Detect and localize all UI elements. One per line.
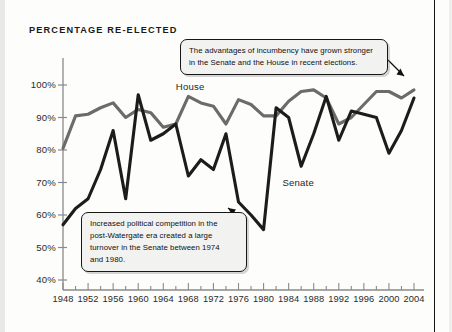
callout-top-line-1: The advantages of incumbency have grown … xyxy=(189,45,379,57)
annotation-arrows xyxy=(228,60,404,221)
x-axis-ticks xyxy=(63,283,414,290)
x-tick-label: 2004 xyxy=(397,294,431,304)
chart-series-lines xyxy=(63,90,414,230)
y-tick-label: 40% xyxy=(22,274,56,285)
callout-bottom-line-3: turnover in the Senate between 1974 xyxy=(90,242,238,254)
y-tick-label: 50% xyxy=(22,242,56,253)
y-tick-label: 70% xyxy=(22,177,56,188)
callout-top-line-2: in the Senate and the House in recent el… xyxy=(189,57,379,69)
y-tick-label: 80% xyxy=(22,144,56,155)
callout-bottom-line-2: post-Watergate era created a large xyxy=(90,230,238,242)
callout-bottom-line-1: Increased political competition in the xyxy=(90,218,238,230)
y-tick-label: 100% xyxy=(22,79,56,90)
series-line-senate xyxy=(63,95,414,230)
series-label-senate: Senate xyxy=(282,177,314,188)
annotation-callout-top: The advantages of incumbency have grown … xyxy=(180,39,388,75)
annotation-callout-bottom: Increased political competition in the p… xyxy=(81,212,247,272)
series-label-house: House xyxy=(176,81,205,92)
chart-page: PERCENTAGE RE-ELECTED 100%90%80%70%60%50… xyxy=(0,0,452,332)
y-tick-label: 60% xyxy=(22,209,56,220)
y-tick-label: 90% xyxy=(22,112,56,123)
callout-bottom-line-4: and 1980. xyxy=(90,254,238,266)
